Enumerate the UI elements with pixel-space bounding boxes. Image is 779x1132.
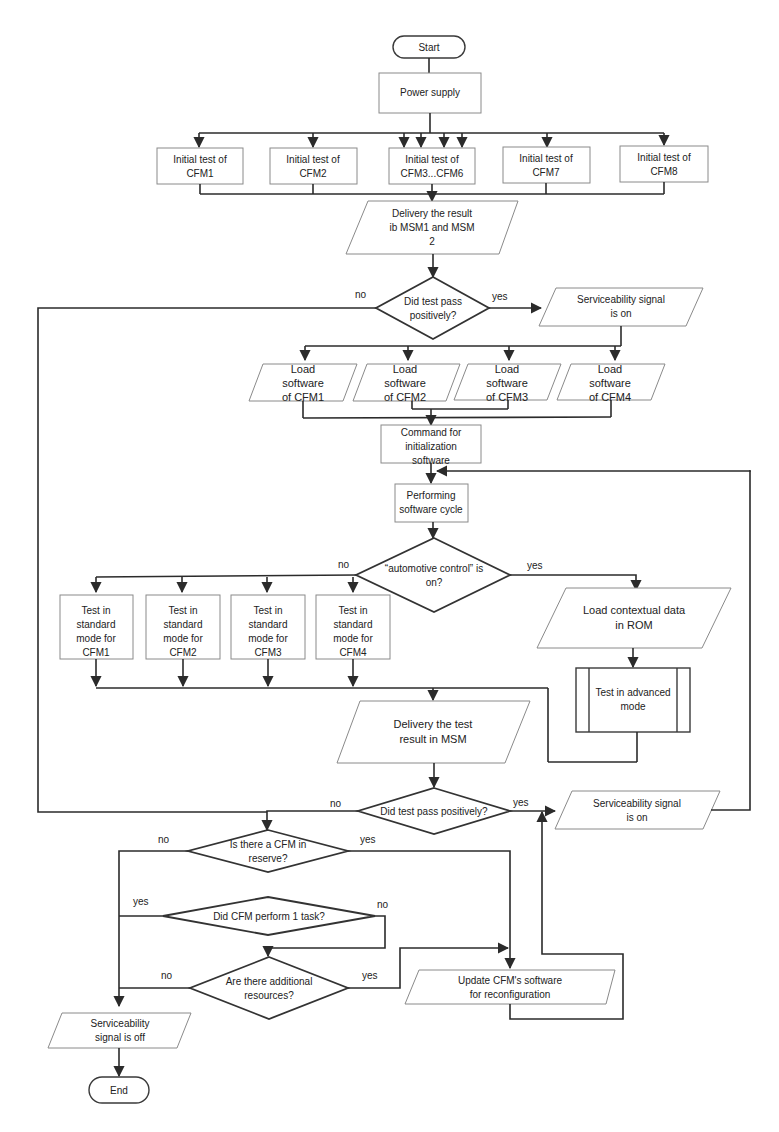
no-label: no xyxy=(355,289,367,300)
svg-text:mode: mode xyxy=(620,701,645,712)
svg-text:Serviceability: Serviceability xyxy=(91,1018,150,1029)
svg-text:Load: Load xyxy=(393,363,417,375)
svg-text:CFM8: CFM8 xyxy=(650,166,678,177)
svg-text:for reconfiguration: for reconfiguration xyxy=(470,989,551,1000)
svg-text:CFM4: CFM4 xyxy=(339,647,367,658)
svg-text:CFM3...CFM6: CFM3...CFM6 xyxy=(401,168,464,179)
svg-text:CFM1: CFM1 xyxy=(82,647,110,658)
yes-label: yes xyxy=(527,560,543,571)
svg-text:on?: on? xyxy=(426,577,443,588)
svg-text:of CFM3: of CFM3 xyxy=(486,391,528,403)
standard-test-cfm4: Test in standard mode for CFM4 xyxy=(316,595,390,659)
initial-test-cfm1: Initial test of CFM1 xyxy=(157,148,243,184)
flowchart: Start Power supply Initial test of CFM1 … xyxy=(0,0,779,1132)
decision-cfm-reserve: Is there a CFM in reserve? xyxy=(188,830,348,872)
svg-text:ib MSM1 and MSM: ib MSM1 and MSM xyxy=(389,222,474,233)
load-software-cfm1: Load software of CFM1 xyxy=(249,363,357,403)
decision-additional-resources: Are there additional resources? xyxy=(190,957,348,1019)
initial-test-cfm2: Initial test of CFM2 xyxy=(270,148,357,184)
svg-text:software: software xyxy=(486,377,528,389)
no-label: no xyxy=(377,899,389,910)
svg-text:standard: standard xyxy=(249,619,288,630)
svg-text:standard: standard xyxy=(77,619,116,630)
power-supply-box: Power supply xyxy=(379,73,481,113)
yes-label: yes xyxy=(492,291,508,302)
svg-text:2: 2 xyxy=(429,236,435,247)
svg-text:Are there additional: Are there additional xyxy=(226,976,313,987)
power-supply-label: Power supply xyxy=(400,87,460,98)
no-label: no xyxy=(330,798,342,809)
yes-label: yes xyxy=(362,970,378,981)
svg-text:Initial test of: Initial test of xyxy=(286,154,340,165)
serviceability-on-io-1: Serviceability signal is on xyxy=(539,288,703,326)
no-label: no xyxy=(158,834,170,845)
svg-text:is on: is on xyxy=(626,812,647,823)
serviceability-on-io-2: Serviceability signal is on xyxy=(555,791,720,829)
update-software-io: Update CFM's software for reconfiguratio… xyxy=(405,970,615,1004)
svg-text:software cycle: software cycle xyxy=(399,504,463,515)
svg-text:Load: Load xyxy=(291,363,315,375)
yes-label: yes xyxy=(513,797,529,808)
load-contextual-io: Load contextual data in ROM xyxy=(537,588,731,648)
yes-label: yes xyxy=(360,834,376,845)
svg-text:Update CFM's software: Update CFM's software xyxy=(458,975,563,986)
svg-text:Initial test of: Initial test of xyxy=(405,154,459,165)
svg-text:Command for: Command for xyxy=(401,427,462,438)
decision-cfm-task: Did CFM perform 1 task? xyxy=(163,897,375,935)
no-label: no xyxy=(338,559,350,570)
svg-text:positively?: positively? xyxy=(410,310,457,321)
svg-text:in ROM: in ROM xyxy=(615,619,652,631)
svg-text:software: software xyxy=(282,377,324,389)
decision-test-pass-1: Did test pass positively? xyxy=(376,277,489,339)
svg-text:CFM2: CFM2 xyxy=(299,168,327,179)
standard-test-cfm1: Test in standard mode for CFM1 xyxy=(60,595,133,659)
svg-text:is on: is on xyxy=(610,308,631,319)
svg-text:mode for: mode for xyxy=(248,633,288,644)
svg-text:Initial test of: Initial test of xyxy=(637,152,691,163)
performing-cycle-box: Performing software cycle xyxy=(395,484,468,522)
load-software-cfm4: Load software of CFM4 xyxy=(557,363,665,403)
svg-text:Load contextual data: Load contextual data xyxy=(583,604,686,616)
svg-text:Delivery the result: Delivery the result xyxy=(392,208,472,219)
svg-text:Test in: Test in xyxy=(339,605,368,616)
svg-text:reserve?: reserve? xyxy=(249,853,288,864)
initial-test-cfm7: Initial test of CFM7 xyxy=(503,147,590,183)
no-label: no xyxy=(161,970,173,981)
svg-text:Performing: Performing xyxy=(407,490,456,501)
svg-text:“automotive control” is: “automotive control” is xyxy=(385,563,483,574)
svg-text:Load: Load xyxy=(598,363,622,375)
svg-text:Load: Load xyxy=(495,363,519,375)
svg-text:Test in advanced: Test in advanced xyxy=(595,687,670,698)
svg-text:CFM7: CFM7 xyxy=(532,167,560,178)
delivery-result-io: Delivery the result ib MSM1 and MSM 2 xyxy=(346,201,518,254)
svg-text:Test in: Test in xyxy=(169,605,198,616)
initial-test-cfm8: Initial test of CFM8 xyxy=(620,146,708,182)
load-software-cfm3: Load software of CFM3 xyxy=(454,363,561,403)
svg-text:software: software xyxy=(589,377,631,389)
svg-text:Initial test of: Initial test of xyxy=(173,154,227,165)
serviceability-off-io: Serviceability signal is off xyxy=(48,1013,191,1048)
svg-text:Is there a CFM in: Is there a CFM in xyxy=(230,839,307,850)
delivery-test-result-io: Delivery the test result in MSM xyxy=(337,701,530,763)
svg-text:CFM1: CFM1 xyxy=(186,168,214,179)
svg-text:standard: standard xyxy=(164,619,203,630)
standard-test-cfm3: Test in standard mode for CFM3 xyxy=(231,595,305,659)
end-terminal: End xyxy=(89,1077,149,1103)
initial-test-cfm3-cfm6: Initial test of CFM3...CFM6 xyxy=(389,148,475,184)
svg-text:Did CFM perform 1 task?: Did CFM perform 1 task? xyxy=(213,911,325,922)
svg-text:of CFM2: of CFM2 xyxy=(384,391,426,403)
svg-text:of CFM4: of CFM4 xyxy=(589,391,631,403)
svg-text:resources?: resources? xyxy=(244,990,294,1001)
svg-text:Did test pass positively?: Did test pass positively? xyxy=(380,806,488,817)
advanced-test-process: Test in advanced mode xyxy=(576,668,690,732)
svg-text:Serviceability signal: Serviceability signal xyxy=(593,798,681,809)
svg-text:result in MSM: result in MSM xyxy=(399,733,466,745)
svg-text:software: software xyxy=(384,377,426,389)
svg-text:mode for: mode for xyxy=(333,633,373,644)
yes-label: yes xyxy=(133,896,149,907)
standard-test-cfm2: Test in standard mode for CFM2 xyxy=(146,595,220,659)
svg-text:signal is off: signal is off xyxy=(95,1032,145,1043)
svg-text:Test in: Test in xyxy=(82,605,111,616)
svg-text:mode for: mode for xyxy=(163,633,203,644)
start-label: Start xyxy=(418,42,439,53)
